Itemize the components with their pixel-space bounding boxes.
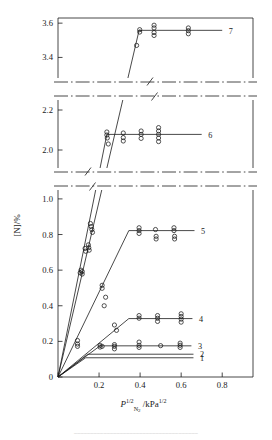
data-point	[179, 320, 183, 324]
y-tick-label: 2.0	[42, 145, 53, 155]
series-1: 1	[58, 354, 204, 377]
x-tick-label: 0.2	[94, 380, 105, 390]
series-line	[128, 30, 139, 78]
data-point	[137, 231, 141, 235]
data-point	[106, 142, 110, 146]
axis-break-slash	[90, 183, 96, 191]
series-label-7: 7	[229, 27, 233, 36]
series-line	[58, 190, 96, 377]
data-point	[139, 136, 143, 140]
y-tick-label: 0.8	[42, 230, 53, 240]
data-point	[186, 32, 190, 36]
figure-caption-strip: ──────────────────────────────────────	[0, 431, 272, 436]
series-line	[58, 319, 192, 377]
series-label-2: 2	[200, 350, 204, 359]
panel-bottom: 1.00.80.60.40.200.20.40.60.812345	[42, 190, 253, 390]
data-point	[172, 237, 176, 241]
x-tick-label: 0.6	[176, 380, 187, 390]
y-tick-label: 0.4	[42, 301, 53, 311]
y-tick-label: 2.2	[42, 105, 53, 115]
series-label-3: 3	[198, 342, 202, 351]
y-tick-label: 0.2	[42, 336, 53, 346]
nitrogen-solubility-chart: 3.63.47 2.22.06 1.00.80.60.40.200.20.40.…	[0, 0, 272, 440]
series-line	[58, 190, 102, 377]
x-axis-title: P1/2N2 /kPa1/2	[119, 398, 166, 413]
data-point	[112, 347, 116, 351]
panel-top: 3.63.47	[42, 18, 253, 78]
y-axis-title: [N]/%	[12, 214, 22, 237]
x-tick-label: 0.4	[135, 380, 146, 390]
y-tick-label: 3.4	[42, 52, 53, 62]
data-point	[112, 323, 116, 327]
data-point	[104, 295, 108, 299]
y-tick-label: 1.0	[42, 194, 53, 204]
y-tick-label: 0	[49, 372, 53, 382]
y-tick-label: 0.6	[42, 265, 53, 275]
axis-break-slash	[152, 93, 158, 101]
series-line	[58, 231, 195, 377]
figure-container: 3.63.47 2.22.06 1.00.80.60.40.200.20.40.…	[0, 0, 272, 440]
data-point	[154, 237, 158, 241]
data-point	[152, 33, 156, 37]
data-point	[153, 227, 157, 231]
data-point	[152, 26, 156, 30]
x-tick-label: 0.8	[217, 380, 228, 390]
panel-middle: 2.22.06	[42, 100, 253, 168]
axis-break-slash	[147, 78, 153, 86]
series-label-4: 4	[199, 315, 203, 324]
data-point	[102, 304, 106, 308]
series-2: 2	[58, 350, 204, 377]
series-label-5: 5	[201, 227, 205, 236]
y-tick-label: 3.6	[42, 18, 53, 28]
series-label-6: 6	[208, 131, 212, 140]
axis-break-slash	[85, 168, 91, 176]
